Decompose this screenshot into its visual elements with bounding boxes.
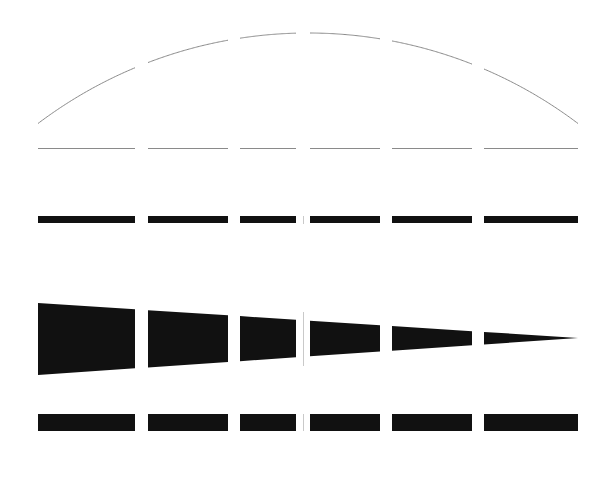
wedge-segment-3	[240, 316, 296, 361]
thick-bar-segment-2	[148, 216, 228, 223]
bottom-bar-segment-2	[148, 414, 228, 431]
test-pattern-canvas	[0, 0, 605, 483]
thick-bar-segment-6	[484, 216, 578, 223]
bottom-bar-segment-5	[392, 414, 472, 431]
thick-bar-segment-1	[38, 216, 135, 223]
wedge-segment-4	[310, 321, 380, 357]
bottom-bar-segment-4	[310, 414, 380, 431]
bottom-bar-segment-6	[484, 414, 578, 431]
thick-bar-segment-3	[240, 216, 296, 223]
figure-root: Segmented line-pair test pattern Five st…	[0, 0, 605, 483]
bottom-bar-segment-3	[240, 414, 296, 431]
thick-bar-segment-5	[392, 216, 472, 223]
canvas-background	[0, 0, 605, 483]
thick-bar-segment-4	[310, 216, 380, 223]
wedge-segment-1	[38, 303, 135, 375]
bottom-bar-segment-1	[38, 414, 135, 431]
wedge-segment-2	[148, 310, 228, 367]
